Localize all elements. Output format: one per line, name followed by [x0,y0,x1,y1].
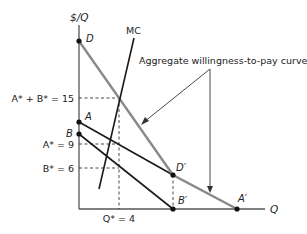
tick-label-b-star: B* = 6 [43,163,74,174]
demand-curve-a [79,122,173,175]
aggregate-curve-label: Aggregate willingness-to-pay curve [139,55,307,66]
point-b [76,131,81,136]
point-b-prime [170,206,175,211]
y-axis-label: $/Q [70,11,88,23]
arrowhead-left-icon [141,117,149,125]
point-d [76,38,81,43]
label-b: B [66,128,73,139]
demand-curve-b [79,134,173,209]
label-b-prime: B′ [178,195,188,206]
point-a [76,119,81,124]
tick-label-q-star: Q* = 4 [103,213,135,224]
point-d-prime [170,172,175,177]
mc-label: MC [126,25,141,36]
point-a-prime [234,206,239,211]
label-a: A [84,111,92,122]
tick-label-sum: A* + B* = 15 [11,93,74,104]
aggregate-willingness-curve [79,41,237,209]
x-axis-label: Q [270,203,278,215]
label-d: D [86,33,94,44]
label-d-prime: D′ [176,162,187,173]
annotation-arrow-left [144,69,210,122]
tick-label-a-star: A* = 9 [43,139,74,150]
public-good-diagram: $/Q Q MC Aggregate willingness-to-pay cu… [0,0,307,234]
arrowhead-down-icon [207,186,213,193]
label-a-prime: A′ [237,193,248,204]
